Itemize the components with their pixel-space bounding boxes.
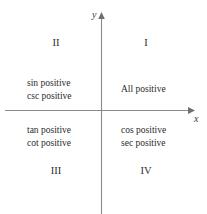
quadrant-numeral-iii: III — [36, 166, 76, 177]
coordinate-axes — [0, 0, 207, 214]
quadrant-numeral-i: I — [126, 38, 166, 49]
quadrant-iv-sign-line-1: cos positive — [121, 124, 166, 137]
y-axis-label: y — [92, 10, 96, 20]
quadrant-iv-signs: cos positive sec positive — [121, 124, 166, 149]
quadrant-iii-sign-line-2: cot positive — [27, 137, 71, 150]
quadrant-ii-sign-line-2: csc positive — [27, 90, 72, 103]
quadrant-numeral-ii: II — [36, 38, 76, 49]
quadrant-ii-sign-line-1: sin positive — [27, 77, 72, 90]
x-axis-label: x — [194, 114, 198, 124]
trig-quadrant-diagram: y x II I III IV sin positive csc positiv… — [0, 0, 207, 214]
quadrant-numeral-iv: IV — [126, 166, 166, 177]
quadrant-iii-signs: tan positive cot positive — [27, 124, 71, 149]
quadrant-iii-sign-line-1: tan positive — [27, 124, 71, 137]
quadrant-iv-sign-line-2: sec positive — [121, 137, 166, 150]
quadrant-ii-signs: sin positive csc positive — [27, 77, 72, 102]
quadrant-i-signs: All positive — [121, 83, 166, 96]
y-axis-arrowhead-icon — [98, 12, 105, 19]
quadrant-i-sign-line-1: All positive — [121, 83, 166, 96]
